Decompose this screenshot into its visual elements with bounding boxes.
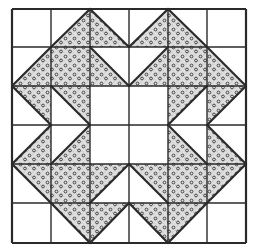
grid-lines (12, 9, 246, 243)
shaded-patch-full (51, 164, 90, 203)
shaded-patch-full (51, 47, 90, 86)
shaded-patch-full (168, 164, 207, 203)
quilt-block-diagram (0, 0, 257, 252)
shaded-patch-full (168, 47, 207, 86)
